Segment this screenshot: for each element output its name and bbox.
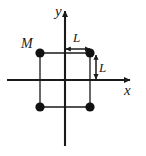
horizontal-dimension-label: L: [72, 30, 80, 45]
point-mass-top-right: [85, 48, 94, 57]
point-mass-bottom-left: [35, 102, 44, 111]
mass-label-M: M: [20, 36, 34, 51]
point-mass-bottom-right: [85, 102, 94, 111]
x-axis-label: x: [123, 82, 131, 98]
coordinate-axes: x y: [7, 3, 131, 146]
vertical-dimension-label: L: [98, 60, 106, 75]
diagram-canvas: x y L L M: [0, 0, 146, 156]
point-mass-top-left: [35, 48, 44, 57]
physics-diagram-figure: x y L L M: [0, 0, 146, 156]
y-axis-label: y: [53, 3, 62, 19]
